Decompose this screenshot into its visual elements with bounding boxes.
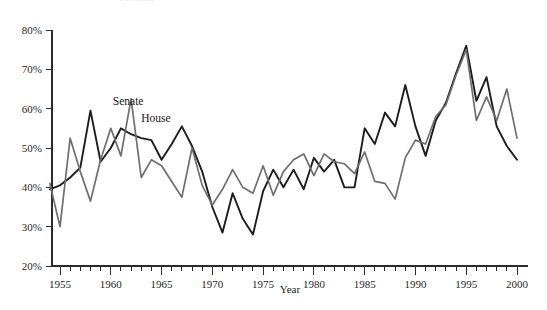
y-tick-label-20: 20% [22, 260, 42, 272]
x-tick-label-1995: 1995 [455, 278, 478, 290]
x-tick-label-1960: 1960 [100, 278, 123, 290]
series-label-senate: Senate [113, 95, 144, 107]
series-line-senate [50, 50, 517, 227]
x-tick-label-1970: 1970 [201, 278, 224, 290]
y-tick-label-80: 80% [22, 24, 42, 36]
x-axis-title: Year [280, 283, 301, 295]
x-tick-label-1980: 1980 [303, 278, 326, 290]
x-tick-label-1990: 1990 [404, 278, 427, 290]
data-series-group [50, 46, 517, 235]
x-tick-label-1985: 1985 [354, 278, 377, 290]
series-line-house [50, 46, 517, 235]
series-label-house: House [141, 112, 170, 124]
x-tick-label-2000: 2000 [506, 278, 529, 290]
y-tick-label-50: 50% [22, 142, 42, 154]
y-tick-label-70: 70% [22, 63, 42, 75]
x-tick-label-1965: 1965 [151, 278, 174, 290]
y-tick-label-60: 60% [22, 103, 42, 115]
x-tick-label-1975: 1975 [252, 278, 275, 290]
series-annotations: SenateHouse [113, 95, 171, 125]
chart-figure: FIGURE 20%30%40%50%60%70%80% 19551960196… [0, 0, 547, 310]
axes-group [52, 30, 528, 266]
line-chart-canvas: 20%30%40%50%60%70%80% 195519601965197019… [0, 0, 547, 310]
x-tick-label-1955: 1955 [49, 278, 72, 290]
y-tick-label-30: 30% [22, 221, 42, 233]
y-tick-label-40: 40% [22, 181, 42, 193]
y-axis-ticks: 20%30%40%50%60%70%80% [22, 24, 52, 272]
